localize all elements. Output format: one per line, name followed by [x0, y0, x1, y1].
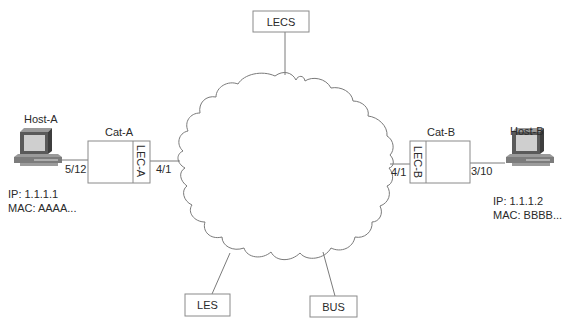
lecs-label: LECS — [253, 16, 309, 28]
bus-label: BUS — [310, 301, 357, 313]
lec-a-label: LEC-A — [135, 142, 147, 180]
host-a-pc-icon — [14, 128, 62, 166]
cat-a-name: Cat-A — [105, 126, 133, 138]
lec-b-label: LEC-B — [412, 143, 424, 181]
les-label: LES — [185, 299, 230, 311]
cat-a-host-port: 5/12 — [65, 163, 86, 175]
les-link — [212, 253, 230, 294]
host-a-ip: IP: 1.1.1.1 — [8, 188, 58, 200]
cat-b-name: Cat-B — [427, 126, 455, 138]
cat-b-atm-port: 4/1 — [391, 166, 406, 178]
bus-link — [323, 252, 335, 296]
cat-b-host-port: 3/10 — [471, 165, 492, 177]
host-b-mac: MAC: BBBB... — [493, 209, 562, 221]
atm-cloud — [178, 73, 393, 260]
host-a-mac: MAC: AAAA... — [8, 202, 76, 214]
cat-a-atm-port: 4/1 — [156, 163, 171, 175]
host-b-ip: IP: 1.1.1.2 — [493, 195, 543, 207]
diagram-canvas — [0, 0, 573, 324]
host-a-name: Host-A — [24, 113, 58, 125]
host-b-name: Host-B — [510, 125, 544, 137]
